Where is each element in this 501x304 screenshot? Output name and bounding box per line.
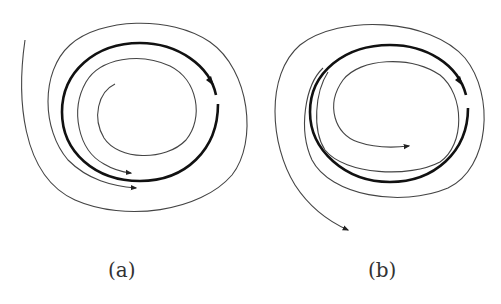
phase-portrait-diagram bbox=[0, 0, 501, 304]
outer-trajectory-b bbox=[275, 24, 484, 230]
limit-cycle-arrow-icon bbox=[206, 76, 214, 86]
inner-trajectory-b bbox=[317, 62, 459, 172]
panel-label-b: (b) bbox=[368, 258, 396, 282]
limit-cycle-a bbox=[62, 43, 218, 181]
panel-label-a: (a) bbox=[108, 258, 136, 282]
inner-trajectory-a bbox=[78, 59, 196, 173]
panel-a bbox=[22, 23, 247, 211]
outer-trajectory-a bbox=[22, 23, 247, 211]
panel-b bbox=[275, 24, 484, 230]
